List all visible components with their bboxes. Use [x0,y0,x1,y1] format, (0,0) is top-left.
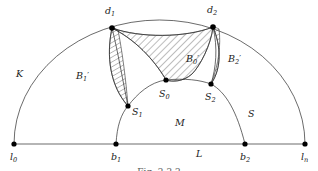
label-B1-prime: B1′ [75,70,89,84]
label-ln: ln [301,151,308,164]
label-M: M [174,117,185,128]
label-b1: b1 [111,151,121,164]
label-S: S [248,108,255,119]
point-S1 [125,103,130,108]
label-l0: l0 [10,151,17,164]
figure-caption: Fig. 2.2.2 [137,167,181,171]
label-K: K [15,68,24,79]
point-S0 [163,77,168,82]
point-S2 [208,81,213,86]
label-S0: S0 [159,88,170,101]
point-d2 [210,24,216,30]
label-S2: S2 [205,91,216,104]
point-b1 [113,141,118,146]
point-l0 [11,141,16,146]
hatched-region-B1 [109,28,128,106]
label-L: L [195,148,202,159]
point-b2 [242,141,247,146]
point-d1 [109,25,115,31]
label-d2: d2 [207,4,217,17]
figure-container: d1 d2 K L S M l0 ln b1 b2 S1 [0,0,318,171]
label-S1: S1 [132,106,143,119]
label-B2-prime: B2′ [227,53,241,67]
point-ln [302,141,307,146]
label-d1: d1 [105,5,115,18]
geometric-figure: d1 d2 K L S M l0 ln b1 b2 S1 [0,0,318,171]
label-b2: b2 [240,151,250,164]
